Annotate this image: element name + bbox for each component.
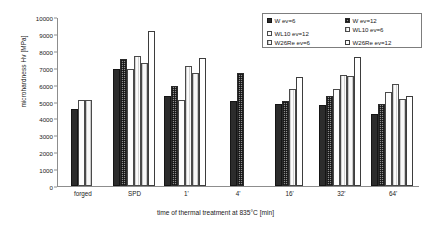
legend-swatch-icon bbox=[345, 27, 350, 32]
y-axis-tick-labels: 1000090008000700060005000400030002000100… bbox=[0, 18, 57, 187]
y-axis-tick-7000: 7000 bbox=[39, 65, 53, 72]
bar bbox=[282, 101, 289, 186]
legend-label: WL10 ev=12 bbox=[275, 30, 309, 38]
y-axis-tick-6000: 6000 bbox=[39, 82, 53, 89]
bar-group-1min bbox=[161, 18, 213, 186]
bar bbox=[113, 69, 120, 186]
bar bbox=[392, 84, 399, 186]
legend-label: W26Re ev=12 bbox=[353, 39, 392, 47]
bar bbox=[333, 89, 340, 187]
y-axis-tick-10000: 10000 bbox=[36, 15, 53, 22]
bar bbox=[354, 57, 361, 186]
microhardness-bar-chart: microhardness Hv [MPa] 10000900080007000… bbox=[0, 0, 431, 232]
x-axis-tick-label: 4' bbox=[236, 190, 241, 197]
y-axis-tick-1000: 1000 bbox=[39, 167, 53, 174]
bar bbox=[141, 63, 148, 186]
bar bbox=[326, 96, 333, 186]
bar bbox=[192, 73, 199, 186]
x-axis-tick-label: SPD bbox=[128, 190, 141, 197]
bar bbox=[399, 99, 406, 186]
legend-swatch-icon bbox=[345, 40, 350, 45]
bar bbox=[78, 100, 85, 186]
bar-group-4min bbox=[213, 18, 265, 186]
legend-item: WL10 ev=6 bbox=[345, 25, 421, 34]
x-axis-tick-label: forged bbox=[74, 190, 92, 197]
bar bbox=[319, 105, 326, 186]
legend-label: W26Re ev=6 bbox=[275, 39, 310, 47]
bar bbox=[378, 104, 385, 186]
legend-label: WL10 ev=6 bbox=[353, 26, 384, 34]
y-axis-tick-2000: 2000 bbox=[39, 150, 53, 157]
y-axis-tick-4000: 4000 bbox=[39, 116, 53, 123]
bar bbox=[275, 104, 282, 186]
legend-label: W ev=6 bbox=[275, 17, 296, 25]
bar bbox=[148, 31, 155, 186]
bar bbox=[178, 100, 185, 186]
bar bbox=[71, 109, 78, 186]
bar bbox=[230, 101, 237, 186]
bar bbox=[127, 69, 134, 186]
bar bbox=[171, 86, 178, 186]
bar-group-forged bbox=[58, 18, 110, 186]
bar bbox=[371, 114, 378, 186]
bar bbox=[385, 92, 392, 186]
bar bbox=[164, 96, 171, 186]
chart-legend: W ev=6WL10 ev=12W26Re ev=6 W ev=12WL10 e… bbox=[262, 13, 422, 48]
legend-column-right: W ev=12WL10 ev=6W26Re ev=12 bbox=[345, 16, 421, 47]
legend-item: W ev=12 bbox=[345, 16, 421, 25]
bar bbox=[340, 75, 347, 186]
legend-item: WL10 ev=12 bbox=[267, 29, 343, 38]
bar bbox=[134, 56, 141, 186]
x-axis-tick-labels: forgedSPD1'4'16'32'64' bbox=[57, 190, 419, 204]
legend-label: W ev=12 bbox=[353, 17, 377, 25]
x-axis-tick-label: 1' bbox=[184, 190, 189, 197]
bar bbox=[289, 89, 296, 187]
y-axis-tick-9000: 9000 bbox=[39, 31, 53, 38]
bar bbox=[237, 73, 244, 186]
bar bbox=[406, 96, 413, 186]
y-axis-tick-3000: 3000 bbox=[39, 133, 53, 140]
bar bbox=[347, 76, 354, 186]
legend-swatch-icon bbox=[267, 31, 272, 36]
y-axis-tick-5000: 5000 bbox=[39, 99, 53, 106]
bar bbox=[199, 58, 206, 186]
x-axis-tick-label: 16' bbox=[286, 190, 294, 197]
bar-group-SPD bbox=[110, 18, 162, 186]
legend-swatch-icon bbox=[345, 18, 350, 23]
x-axis-tick-label: 32' bbox=[337, 190, 345, 197]
y-axis-tick-0: 0 bbox=[50, 184, 53, 191]
legend-item: W26Re ev=6 bbox=[267, 38, 343, 47]
legend-column-left: W ev=6WL10 ev=12W26Re ev=6 bbox=[267, 16, 343, 47]
y-axis-tick-8000: 8000 bbox=[39, 48, 53, 55]
legend-item: W26Re ev=12 bbox=[345, 38, 421, 47]
bar bbox=[120, 59, 127, 186]
legend-item: W ev=6 bbox=[267, 16, 343, 25]
bar bbox=[185, 66, 192, 186]
legend-swatch-icon bbox=[267, 40, 272, 45]
legend-swatch-icon bbox=[267, 18, 272, 23]
bar bbox=[296, 77, 303, 186]
x-axis-title: time of thermal treatment at 835°C [min] bbox=[0, 209, 431, 216]
x-axis-tick-label: 64' bbox=[389, 190, 397, 197]
bar bbox=[85, 100, 92, 186]
